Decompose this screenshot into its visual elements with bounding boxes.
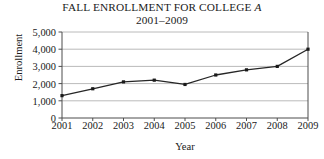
chart-subtitle: 2001–2009 [0,14,324,26]
data-point-marker [306,48,309,51]
chart-title-college-letter: A [255,1,262,13]
enrollment-data-markers [60,48,309,98]
chart-title-text: FALL ENROLLMENT FOR COLLEGE [62,1,254,13]
plot-area [62,32,308,118]
data-point-marker [122,80,125,83]
y-tick-label: 2,000 [10,78,56,89]
y-tick-label: 4,000 [10,44,56,55]
data-point-marker [276,65,279,68]
x-axis-tick-labels: 200120022003200420052006200720082009 [62,120,308,134]
plot-svg [62,32,308,118]
y-tick-label: 3,000 [10,61,56,72]
gridlines [62,32,308,101]
chart-title: FALL ENROLLMENT FOR COLLEGE A [0,1,324,13]
enrollment-data-line [62,49,308,95]
data-point-marker [153,79,156,82]
axis-tick-marks [59,32,309,121]
data-point-marker [214,73,217,76]
y-tick-label: 5,000 [10,27,56,38]
y-axis-tick-labels: 01,0002,0003,0004,0005,000 [10,32,56,118]
data-point-marker [183,83,186,86]
enrollment-line-chart: FALL ENROLLMENT FOR COLLEGE A 2001–2009 … [0,0,324,159]
y-tick-label: 1,000 [10,95,56,106]
data-point-marker [91,87,94,90]
data-point-marker [60,94,63,97]
data-point-marker [245,68,248,71]
x-axis-title: Year [62,141,308,152]
x-tick-label: 2009 [288,120,324,131]
chart-title-block: FALL ENROLLMENT FOR COLLEGE A 2001–2009 [0,1,324,26]
